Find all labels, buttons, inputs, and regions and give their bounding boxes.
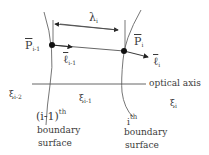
surface-curr-line1: boundary (124, 128, 167, 137)
p-curr-subscript: i (141, 41, 143, 48)
lambda-subscript: i (96, 17, 98, 24)
lambda-symbol: λ (89, 11, 96, 24)
ordinal-suffix: th (59, 108, 66, 116)
surface-prev-line1: boundary (37, 126, 80, 135)
surface-prev-ordinal: (i-1)th (36, 109, 66, 122)
l-prev-subscript: i-1 (68, 59, 76, 66)
optical-axis-label: optical axis (149, 79, 201, 88)
surface-curr-ordinal: ith (127, 114, 137, 127)
p-prev-label: Pi-1 (25, 40, 40, 52)
p-curr-label: Pi (134, 36, 143, 48)
medium-label-i-1: ξi-1 (79, 94, 92, 104)
medium-label-i-2: ξi-2 (9, 90, 22, 100)
l-prev-label: ℓi-1 (63, 54, 76, 66)
medium-subscript: i-1 (84, 97, 92, 104)
p-prev-subscript: i-1 (32, 45, 40, 52)
point-p-prev (49, 42, 55, 48)
surface-prev-line2: surface (38, 139, 72, 148)
diagram-canvas: λi Pi-1 Pi ℓi-1 ℓi optical axis ξi-2 ξi-… (0, 0, 209, 155)
ordinal-suffix: th (130, 113, 137, 121)
l-curr-subscript: i (158, 61, 160, 68)
surface-curr-line2: surface (125, 141, 159, 150)
l-curr-label: ℓi (153, 56, 160, 68)
medium-subscript: i (175, 102, 177, 109)
boundary-surface-curr (122, 10, 141, 117)
medium-label-i: ξi (170, 99, 177, 109)
ray-direction-arrow-curr (124, 51, 148, 57)
point-p-curr (121, 48, 127, 54)
ordinal-text: (i-1) (36, 110, 59, 123)
medium-subscript: i-2 (14, 93, 22, 100)
lambda-label: λi (89, 12, 98, 24)
